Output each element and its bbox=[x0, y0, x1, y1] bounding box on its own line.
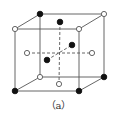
edge-connector-top-left bbox=[15, 14, 40, 29]
atom-open-left-face-center bbox=[24, 50, 29, 55]
atom-open-top-front-left bbox=[12, 26, 17, 31]
atom-open-top-back-right bbox=[101, 11, 106, 16]
cube-interior-axes bbox=[27, 22, 92, 84]
atom-filled-bottom-back-right bbox=[101, 74, 107, 80]
atom-open-top-front-right bbox=[76, 26, 81, 31]
atom-filled-bottom-front-left bbox=[12, 88, 18, 94]
atom-filled-front-face-center bbox=[44, 57, 50, 63]
figure-caption: （a） bbox=[0, 98, 117, 114]
atom-filled-back-face-center bbox=[69, 42, 75, 48]
atom-open-bottom-back-left bbox=[37, 74, 42, 79]
atom-open-bottom-face-center bbox=[56, 81, 61, 86]
edge-connector-top-right bbox=[79, 14, 104, 29]
edge-connector-bottom-left bbox=[15, 77, 40, 91]
atom-filled-top-face-center bbox=[57, 19, 63, 25]
atom-filled-bottom-front-right bbox=[76, 88, 82, 94]
edge-connector-bottom-right bbox=[79, 77, 104, 91]
atom-open-right-face-center bbox=[89, 50, 94, 55]
atom-filled-top-back-left bbox=[37, 11, 43, 17]
